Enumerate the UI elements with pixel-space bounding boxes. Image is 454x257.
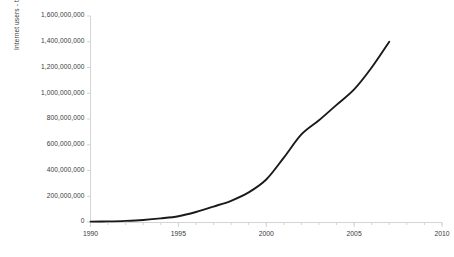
y-axis-tick-label: 800,000,000 [47, 115, 85, 122]
y-axis-tick-label: 1,600,000,000 [41, 12, 84, 19]
x-axis-tick-label: 2000 [246, 231, 286, 238]
y-axis-tick-label: 400,000,000 [47, 167, 85, 174]
x-axis-tick-label: 1990 [71, 231, 111, 238]
data-series-line [91, 42, 390, 222]
axes [87, 16, 442, 227]
y-axis-tick-label: 600,000,000 [47, 141, 85, 148]
chart-figure: Internet users - total worldwide 0200,00… [0, 0, 454, 257]
y-axis-tick-label: 0 [81, 218, 85, 225]
y-axis-tick-label: 1,200,000,000 [41, 64, 84, 71]
x-axis-tick-label: 2005 [334, 231, 374, 238]
y-axis-tick-marks [87, 16, 91, 222]
y-axis-tick-label: 1,400,000,000 [41, 38, 84, 45]
y-axis-tick-label: 200,000,000 [47, 193, 85, 200]
y-axis-title: Internet users - total worldwide [14, 0, 21, 50]
y-axis-tick-label: 1,000,000,000 [41, 90, 84, 97]
x-axis-tick-label: 2010 [422, 231, 454, 238]
x-axis-tick-label: 1995 [158, 231, 198, 238]
